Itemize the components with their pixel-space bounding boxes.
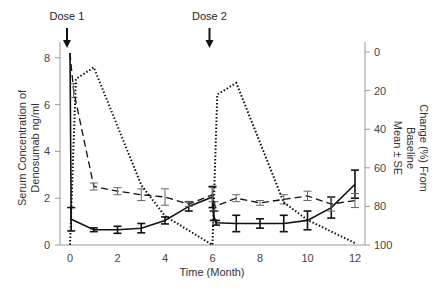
svg-text:Mean ± SE: Mean ± SE: [392, 121, 404, 175]
svg-text:Denosumab ng/ml: Denosumab ng/ml: [29, 103, 41, 192]
y2-tick-label: 80: [374, 200, 386, 212]
down-arrow-icon: [63, 28, 71, 48]
error-bar: [304, 191, 312, 200]
plot-area: [67, 53, 359, 245]
y-tick-label: 2: [44, 192, 50, 204]
y2-tick-label: 0: [374, 46, 380, 58]
dose-label: Dose 2: [192, 10, 227, 22]
svg-text:Serum Concentration of: Serum Concentration of: [16, 89, 28, 206]
chart: 02468 020406080100 024681012 Time (Month…: [0, 0, 443, 294]
y-tick-label: 0: [44, 239, 50, 251]
left-axis: 02468: [44, 42, 60, 251]
y2-tick-label: 20: [374, 85, 386, 97]
x-tick-label: 4: [162, 252, 168, 264]
down-arrow-icon: [206, 28, 214, 48]
series-dashed-line: [70, 53, 355, 206]
x-tick-label: 6: [209, 252, 215, 264]
y-tick-label: 4: [44, 145, 50, 157]
error-bar: [209, 188, 217, 202]
y2-axis-title: Change (%) From Baseline Mean ± SE: [392, 104, 430, 191]
x-tick-label: 12: [349, 252, 361, 264]
y2-tick-label: 60: [374, 162, 386, 174]
svg-text:Change (%) From: Change (%) From: [418, 104, 430, 191]
x-tick-label: 2: [114, 252, 120, 264]
x-axis: 024681012: [60, 245, 365, 264]
y-axis-title: Serum Concentration of Denosumab ng/ml: [16, 89, 41, 206]
x-tick-label: 10: [301, 252, 313, 264]
dose-annotation: Dose 2: [192, 10, 227, 48]
x-tick-label: 0: [67, 252, 73, 264]
dose-annotation: Dose 1: [50, 10, 85, 48]
error-bar: [232, 195, 240, 202]
x-axis-title: Time (Month): [180, 266, 245, 278]
dose-annotations: Dose 1Dose 2: [50, 10, 227, 48]
y-tick-label: 8: [44, 52, 50, 64]
right-axis: 020406080100: [365, 42, 392, 251]
y2-tick-label: 100: [374, 239, 392, 251]
y2-tick-label: 40: [374, 123, 386, 135]
y-tick-label: 6: [44, 99, 50, 111]
dose-label: Dose 1: [50, 10, 85, 22]
x-tick-label: 8: [257, 252, 263, 264]
svg-text:Baseline: Baseline: [405, 127, 417, 169]
